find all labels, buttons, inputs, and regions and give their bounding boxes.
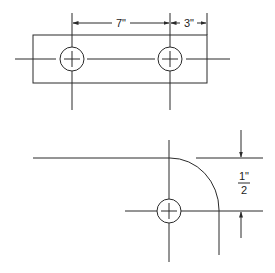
dimension-7-label: 7" <box>116 17 126 29</box>
corner-figure: 1" 2 <box>33 130 263 262</box>
corner-outline <box>33 158 219 255</box>
fraction-denominator: 2 <box>241 184 247 196</box>
fraction-numerator: 1" <box>239 170 249 182</box>
engineering-drawing: 7" 3" 1" 2 <box>0 0 275 273</box>
dimension-3: 3" <box>171 17 206 29</box>
hole-right <box>158 13 182 110</box>
dimension-half-label: 1" 2 <box>238 170 250 196</box>
hole-left <box>60 13 84 110</box>
plate-figure: 7" 3" <box>15 13 230 110</box>
dimension-7: 7" <box>73 17 169 29</box>
hole-corner <box>157 199 181 223</box>
dimension-3-label: 3" <box>184 17 194 29</box>
